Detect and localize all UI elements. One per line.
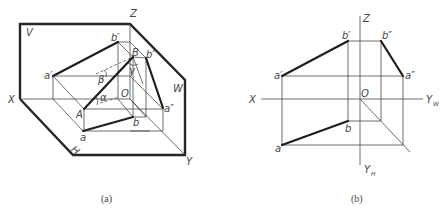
line-a-prime-b-prime (53, 42, 118, 76)
projection-diagram: V W H Z X Y O b′ B b″ a′ A a″ b a α β γ … (0, 0, 443, 212)
label-V: V (26, 27, 34, 38)
label-Z-b: Z (362, 13, 371, 24)
label-B: B (132, 47, 139, 58)
line-AB (84, 57, 133, 109)
figure-b: Z X O Y W Y H b′ b″ a′ a″ b a (b) (248, 13, 440, 205)
label-O: O (121, 88, 129, 99)
label-Y-W-sub: W (433, 100, 440, 107)
label-a-dprime-b: a″ (405, 70, 415, 81)
label-Y-H-sub: H (371, 170, 376, 177)
label-Y-H: Y (364, 164, 371, 175)
label-a-b: a (275, 143, 281, 154)
label-b-b: b (345, 123, 351, 134)
line-a-b (83, 117, 133, 131)
line-a-prime-b-prime-b (282, 41, 348, 76)
label-a-prime: a′ (44, 70, 53, 81)
label-beta: β (97, 74, 105, 85)
caption-b: (b) (351, 193, 363, 205)
label-Y-W: Y (426, 94, 433, 105)
label-Y: Y (186, 156, 193, 167)
label-A: A (75, 109, 83, 120)
label-gamma: γ (129, 65, 136, 76)
line-a-b-b (282, 121, 348, 145)
line-b-dprime-a-dprime-b (381, 41, 403, 76)
label-a: a (80, 132, 86, 143)
caption-a: (a) (101, 193, 112, 205)
diagonal-45-line (360, 99, 410, 152)
figure-a: V W H Z X Y O b′ B b″ a′ A a″ b a α β γ … (7, 8, 193, 205)
label-b-dprime-b: b″ (382, 30, 392, 41)
label-Z: Z (129, 8, 138, 19)
label-a-dprime: a″ (164, 103, 174, 114)
label-W: W (173, 83, 184, 94)
label-alpha: α (100, 92, 107, 103)
label-O-b: O (361, 88, 369, 99)
label-a-prime-b: a′ (274, 70, 283, 81)
construction-lines-b (282, 41, 403, 145)
label-X-b: X (248, 94, 257, 105)
label-X: X (7, 94, 16, 105)
label-b-prime: b′ (111, 32, 120, 43)
label-b: b (133, 117, 139, 128)
label-b-dprime: b″ (146, 49, 156, 60)
label-b-prime-b: b′ (342, 30, 351, 41)
